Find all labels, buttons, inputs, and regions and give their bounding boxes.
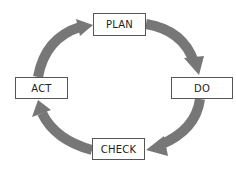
step-act-label: ACT — [31, 83, 51, 94]
arrow-do-to-check — [160, 99, 200, 145]
pdca-cycle-diagram: PLAN DO CHECK ACT — [0, 0, 236, 171]
step-check: CHECK — [92, 138, 145, 160]
step-act: ACT — [15, 77, 68, 99]
arrow-act-to-plan — [38, 27, 80, 77]
arrowhead-plan — [76, 19, 93, 36]
arrow-plan-to-do — [146, 24, 194, 62]
step-do: DO — [171, 77, 233, 99]
step-plan-label: PLAN — [106, 19, 133, 30]
arrowhead-do — [184, 56, 204, 75]
step-check-label: CHECK — [101, 144, 136, 155]
arrow-check-to-act — [42, 113, 92, 150]
step-do-label: DO — [194, 83, 210, 94]
step-plan: PLAN — [93, 13, 146, 36]
